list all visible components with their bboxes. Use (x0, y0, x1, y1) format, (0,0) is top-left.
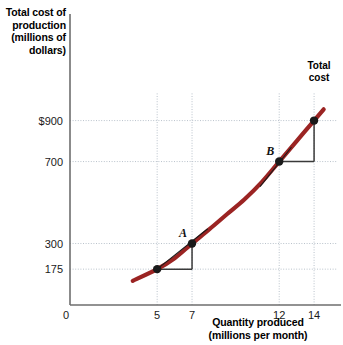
x-tick-label-12: 12 (273, 309, 285, 321)
gridlines (70, 92, 337, 305)
curve-total-cost (133, 109, 324, 281)
x-tick-label-5: 5 (154, 309, 160, 321)
y-tick-label-175: 175 (45, 263, 63, 275)
data-point-B (275, 157, 283, 165)
y-tick-label-900: $900 (39, 115, 63, 127)
tick-labels: $9007003001755712140 (39, 115, 321, 321)
secant-lines (157, 147, 291, 269)
slope-triangles (157, 121, 314, 270)
secant-B (260, 147, 291, 186)
data-point-2 (153, 265, 161, 273)
total-cost-curve (133, 109, 324, 281)
plot-area: AB $9007003001755712140 (0, 0, 343, 345)
x-tick-label-14: 14 (308, 309, 320, 321)
cost-curve-chart: Total cost of production (millions of do… (0, 0, 343, 345)
point-label-B: B (265, 144, 274, 158)
data-point-A (188, 239, 196, 247)
axes (70, 14, 341, 305)
y-tick-label-300: 300 (45, 238, 63, 250)
y-tick-label-700: 700 (45, 156, 63, 168)
data-point-3 (310, 116, 318, 124)
point-label-A: A (178, 226, 187, 240)
data-points: AB (153, 116, 318, 273)
x-tick-label-7: 7 (189, 309, 195, 321)
origin-label: 0 (63, 309, 69, 321)
